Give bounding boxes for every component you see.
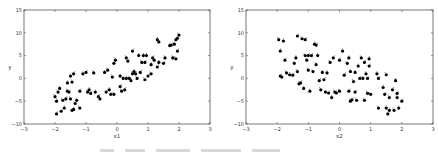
caption-faint-text xyxy=(125,149,145,152)
y-tick-label: 5 xyxy=(241,52,244,58)
y-tick-label: −5 xyxy=(15,98,22,104)
x-tick-label: −2 xyxy=(273,126,280,132)
x-tick-label: 3 xyxy=(208,126,211,132)
x-tick-label: −3 xyxy=(242,126,249,132)
caption-faint-text xyxy=(201,149,241,152)
scatter-plot-x2-vs-y: −3−2−10123−10−5051015x2y xyxy=(230,7,434,139)
x-axis-label: x2 xyxy=(336,133,343,139)
y-tick-label: 0 xyxy=(19,75,22,81)
plot-frame xyxy=(246,10,433,124)
y-tick-label: −10 xyxy=(11,121,22,127)
caption-faint-text xyxy=(252,149,280,152)
x-tick-label: −1 xyxy=(305,126,312,132)
y-tick-label: 15 xyxy=(238,7,244,13)
x-tick-label: 1 xyxy=(369,126,372,132)
scatter-points xyxy=(53,32,180,115)
x-axis-label: x1 xyxy=(114,133,121,139)
y-axis-label: y xyxy=(8,64,12,71)
caption-faint-text xyxy=(100,149,114,152)
x-tick-label: −2 xyxy=(51,126,58,132)
plot-frame xyxy=(24,10,210,124)
y-tick-label: −5 xyxy=(237,98,244,104)
y-tick-label: −10 xyxy=(233,121,244,127)
x-tick-label: 1 xyxy=(146,126,149,132)
y-tick-label: 10 xyxy=(16,30,22,36)
figure-caption xyxy=(100,140,340,150)
x-tick-label: 0 xyxy=(115,126,118,132)
x-tick-label: 2 xyxy=(400,126,403,132)
scatter-plot-x1-vs-y: −3−2−10123−10−5051015x1y xyxy=(8,7,211,139)
scatter-points xyxy=(277,33,404,115)
x-tick-label: −1 xyxy=(82,126,89,132)
x-tick-label: 0 xyxy=(338,126,341,132)
caption-faint-text xyxy=(156,149,190,152)
scatter-plots-canvas: −3−2−10123−10−5051015x1y −3−2−10123−10−5… xyxy=(0,0,438,152)
x-tick-label: 2 xyxy=(177,126,180,132)
y-tick-label: 10 xyxy=(238,30,244,36)
y-axis-label: y xyxy=(230,64,234,71)
x-tick-label: −3 xyxy=(20,126,27,132)
x-tick-label: 3 xyxy=(431,126,434,132)
y-tick-label: 0 xyxy=(241,75,244,81)
y-tick-label: 15 xyxy=(16,7,22,13)
figure: −3−2−10123−10−5051015x1y −3−2−10123−10−5… xyxy=(0,0,438,152)
y-tick-label: 5 xyxy=(19,52,22,58)
